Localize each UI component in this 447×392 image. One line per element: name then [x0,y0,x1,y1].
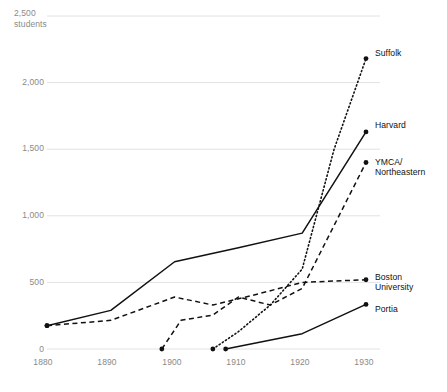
x-tick-1890: 1890 [87,357,127,367]
series-label-ymca-northeastern: YMCA/ Northeastern [375,157,425,178]
gridlines [47,16,380,349]
x-tick-1880: 1880 [23,357,63,367]
x-tick-1910: 1910 [216,357,256,367]
y-tick-1000: 1,000 [0,210,44,220]
x-tick-1900: 1900 [152,357,192,367]
series-label-suffolk: Suffolk [375,48,401,58]
endpoint-dot [159,347,164,352]
series-line-harvard [47,132,366,326]
endpoint-dot [364,160,369,165]
endpoint-dot [210,347,215,352]
endpoint-dot [364,277,369,282]
x-tick-1930: 1930 [344,357,384,367]
series-label-harvard: Harvard [375,120,406,130]
y-tick-500: 500 [0,277,44,287]
endpoint-dot [364,302,369,307]
endpoint-dot [45,323,50,328]
y-tick-1500: 1,500 [0,143,44,153]
y-tick-2000: 2,000 [0,77,44,87]
series-line-ymca-northeastern [162,163,366,349]
endpoint-dot [364,129,369,134]
y-axis-unit-label: 2,500 students [14,8,47,29]
endpoint-dot [364,56,369,61]
series-label-portia: Portia [375,304,398,314]
line-chart: 2,500 students 2,000 1,500 1,000 500 0 1… [0,0,447,392]
chart-plot-area [0,0,447,392]
series-lines [47,59,366,349]
series-line-suffolk [213,59,366,349]
x-tick-1920: 1920 [280,357,320,367]
series-line-portia [226,304,366,349]
series-line-boston-university [47,280,366,326]
y-tick-0: 0 [0,344,44,354]
endpoint-dot [223,347,228,352]
series-label-boston-university: Boston University [375,272,413,293]
